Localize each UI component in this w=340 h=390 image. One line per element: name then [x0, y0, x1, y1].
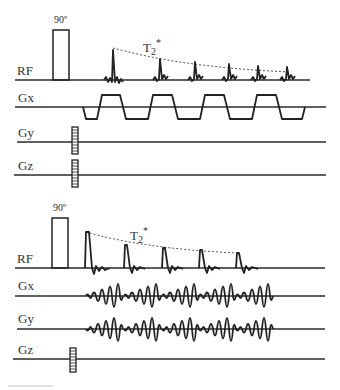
gx-label-2: Gx [18, 278, 34, 293]
epi-panel: 90º RF Gx Gy Gz T2* [14, 14, 326, 187]
gz-label-2: Gz [18, 342, 33, 357]
rf-90-pulse [53, 30, 69, 80]
gy-label: Gy [18, 125, 34, 140]
caption-fragment [8, 385, 53, 387]
flip-angle-label-2: 90º [53, 202, 66, 213]
gz-label: Gz [18, 158, 33, 173]
gz-slice-blip [72, 160, 78, 187]
gx-label: Gx [18, 90, 34, 105]
gy-phase-blip [72, 127, 78, 154]
t2star-label: T2* [143, 37, 161, 57]
t2star-decay-curve [113, 48, 290, 72]
flip-angle-label: 90º [54, 14, 67, 25]
spiral-panel: 90º RF Gx Gy Gz T2* [13, 202, 325, 372]
t2star-label-2: T2* [130, 225, 148, 245]
rf-label-2: RF [17, 251, 33, 266]
rf-label: RF [17, 63, 33, 78]
t2star-decay-curve-2 [86, 232, 237, 253]
gz-slice-blip-2 [70, 348, 76, 372]
rf-90-pulse-2 [52, 218, 68, 268]
pulse-sequence-diagram: 90º RF Gx Gy Gz T2* [0, 0, 340, 390]
epi-echoes [104, 50, 295, 83]
gy-label-2: Gy [18, 311, 34, 326]
